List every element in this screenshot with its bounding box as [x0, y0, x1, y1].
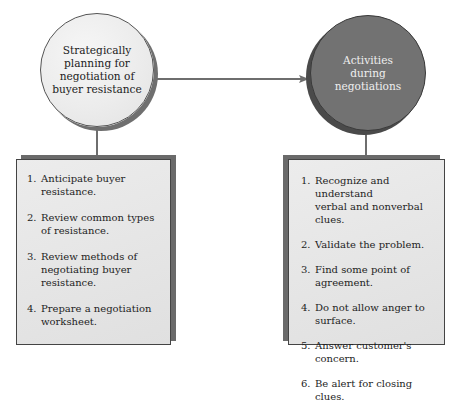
step-number: 1.: [301, 174, 315, 226]
step-number: 2.: [27, 211, 41, 237]
step-number: 6.: [301, 377, 315, 403]
step-number: 5.: [301, 339, 315, 365]
list-item: 6. Be alert for closing clues.: [301, 377, 440, 403]
step-text: Validate the problem.: [315, 238, 440, 251]
step-text: Be alert for closing clues.: [315, 377, 440, 403]
list-item: 3. Review methods of negotiating buyer r…: [27, 250, 166, 289]
step-number: 3.: [301, 263, 315, 289]
planning-circle-node: Strategically planning for negotiation o…: [40, 13, 154, 127]
planning-circle-label: Strategically planning for negotiation o…: [52, 44, 141, 96]
step-text: Prepare a negotiation worksheet.: [41, 302, 166, 328]
step-text: Anticipate buyer resistance.: [41, 172, 166, 198]
list-item: 2. Review common types of resistance.: [27, 211, 166, 237]
activities-circle-node: Activities during negotiations: [310, 15, 426, 131]
planning-steps-box: 1. Anticipate buyer resistance. 2. Revie…: [16, 159, 171, 345]
step-number: 1.: [27, 172, 41, 198]
step-text: Answer customer's concern.: [315, 339, 440, 365]
activities-steps-list: 1. Recognize and understand verbal and n…: [301, 174, 440, 404]
step-text: Do not allow anger to surface.: [315, 301, 440, 327]
activities-circle-label: Activities during negotiations: [335, 54, 402, 93]
list-item: 1. Recognize and understand verbal and n…: [301, 174, 440, 226]
step-text: Review common types of resistance.: [41, 211, 166, 237]
step-number: 4.: [27, 302, 41, 328]
step-text: Review methods of negotiating buyer resi…: [41, 250, 166, 289]
planning-steps-list: 1. Anticipate buyer resistance. 2. Revie…: [27, 172, 166, 341]
list-item: 3. Find some point of agreement.: [301, 263, 440, 289]
list-item: 5. Answer customer's concern.: [301, 339, 440, 365]
step-text: Find some point of agreement.: [315, 263, 440, 289]
list-item: 1. Anticipate buyer resistance.: [27, 172, 166, 198]
step-number: 4.: [301, 301, 315, 327]
step-number: 2.: [301, 238, 315, 251]
list-item: 4. Do not allow anger to surface.: [301, 301, 440, 327]
step-text: Recognize and understand verbal and nonv…: [315, 174, 440, 226]
activities-steps-box: 1. Recognize and understand verbal and n…: [288, 159, 445, 345]
list-item: 4. Prepare a negotiation worksheet.: [27, 302, 166, 328]
list-item: 2. Validate the problem.: [301, 238, 440, 251]
step-number: 3.: [27, 250, 41, 289]
